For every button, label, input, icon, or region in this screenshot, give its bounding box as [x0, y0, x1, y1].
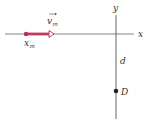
position-symbol: x: [24, 38, 29, 48]
point-d-dot: [114, 89, 119, 94]
point-d-label: D: [120, 87, 128, 97]
position-label: x m: [24, 38, 35, 49]
y-axis-label: y: [112, 3, 119, 13]
distance-label: d: [120, 56, 126, 66]
velocity-arrow-icon: [27, 31, 54, 38]
diagram-canvas: x y v m x m d D: [0, 0, 152, 127]
velocity-label: v m: [47, 13, 58, 27]
velocity-subscript: m: [53, 21, 58, 27]
position-subscript: m: [30, 43, 35, 49]
particle-dot: [24, 32, 28, 36]
x-axis-label: x: [138, 29, 143, 39]
velocity-symbol: v: [47, 16, 52, 26]
